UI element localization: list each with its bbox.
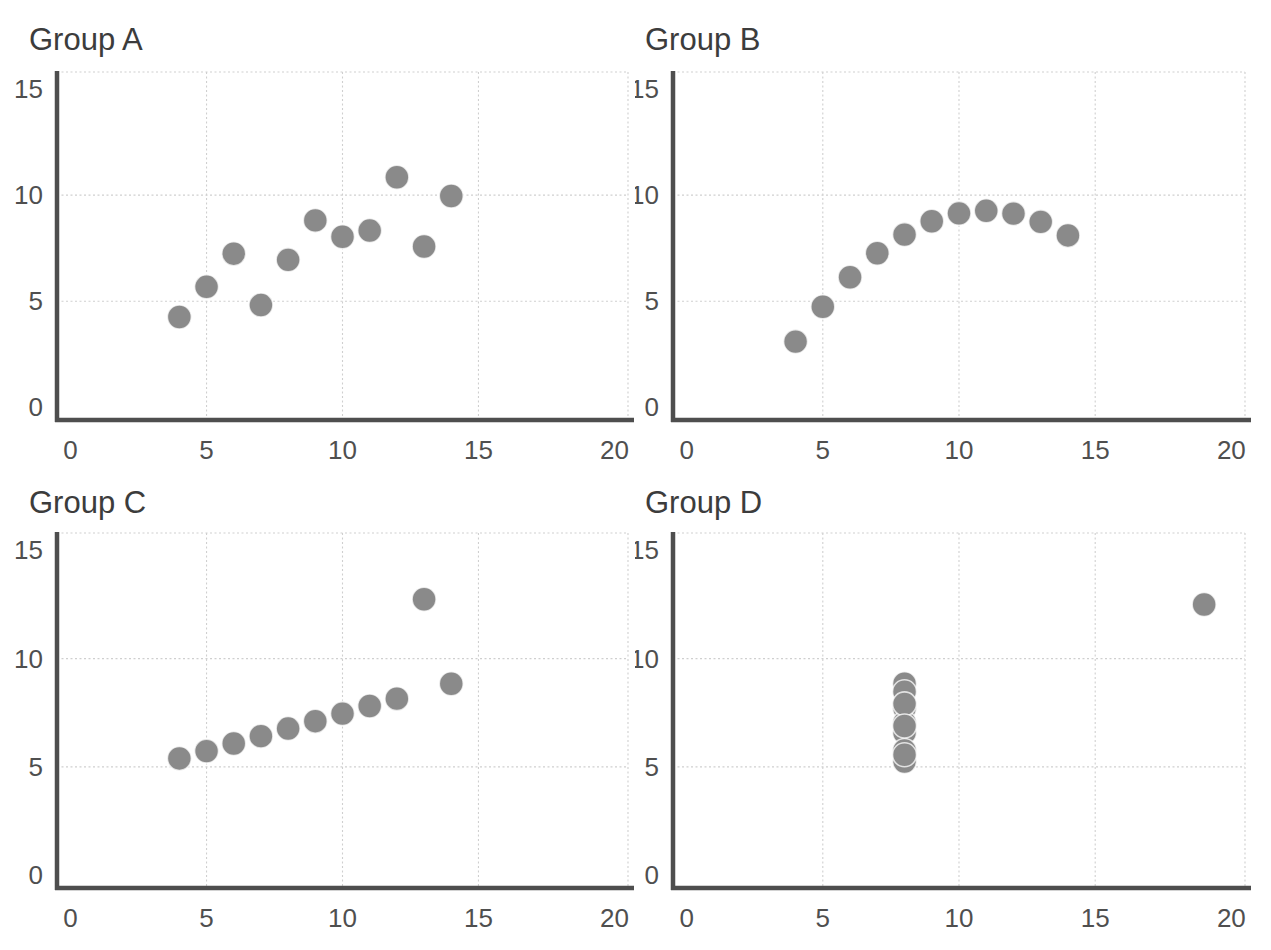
chart-cell-group-a: 05101520051015Group A — [0, 0, 635, 475]
chart-title: Group B — [645, 22, 760, 57]
data-point — [249, 724, 273, 748]
data-point — [811, 295, 835, 319]
chart-cell-group-d: 05101520051015Group D — [635, 475, 1271, 950]
data-point — [167, 746, 191, 770]
data-point — [412, 234, 436, 258]
y-tick-label: 10 — [14, 180, 43, 210]
data-point — [920, 209, 944, 233]
x-tick-label: 20 — [1217, 435, 1246, 465]
data-point — [303, 208, 327, 232]
y-tick-label: 0 — [29, 392, 43, 422]
anscombe-quartet-figure: 05101520051015Group A 05101520051015Grou… — [0, 0, 1271, 950]
y-tick-label: 15 — [14, 74, 43, 104]
data-point — [893, 714, 917, 738]
x-tick-label: 15 — [1081, 435, 1110, 465]
data-point — [947, 201, 971, 225]
x-tick-label: 5 — [199, 435, 213, 465]
y-tick-label: 0 — [29, 860, 43, 890]
data-point — [838, 265, 862, 289]
data-point — [439, 672, 463, 696]
x-tick-label: 20 — [600, 435, 629, 465]
data-point — [974, 199, 998, 223]
data-point — [331, 702, 355, 726]
x-tick-label: 20 — [1217, 903, 1246, 933]
data-point — [439, 184, 463, 208]
y-tick-label: 5 — [645, 752, 659, 782]
data-point — [412, 587, 436, 611]
data-point — [358, 694, 382, 718]
y-tick-label: 5 — [29, 286, 43, 316]
x-tick-label: 5 — [816, 435, 830, 465]
data-point — [249, 293, 273, 317]
chart-cell-group-c: 05101520051015Group C — [0, 475, 635, 950]
y-tick-label: 0 — [645, 392, 659, 422]
data-point — [784, 330, 808, 354]
data-point — [893, 223, 917, 247]
data-point — [222, 732, 246, 756]
y-tick-label: 15 — [635, 535, 659, 565]
data-point — [276, 248, 300, 272]
chart-title: Group D — [645, 485, 762, 520]
data-point — [893, 743, 917, 767]
data-point — [385, 165, 409, 189]
x-tick-label: 10 — [945, 435, 974, 465]
x-tick-label: 15 — [464, 435, 493, 465]
data-point — [358, 219, 382, 243]
data-point — [1192, 592, 1216, 616]
y-tick-label: 15 — [14, 535, 43, 565]
data-point — [276, 717, 300, 741]
x-tick-label: 0 — [679, 435, 693, 465]
x-tick-label: 15 — [1081, 903, 1110, 933]
x-tick-label: 10 — [328, 435, 357, 465]
data-point — [167, 305, 191, 329]
x-tick-label: 10 — [328, 903, 357, 933]
chart-title: Group C — [29, 485, 146, 520]
data-point — [195, 275, 219, 299]
y-tick-label: 5 — [645, 286, 659, 316]
data-point — [1056, 223, 1080, 247]
scatter-plot-canvas: 05101520051015Group D — [635, 475, 1271, 950]
data-point — [865, 241, 889, 265]
y-tick-label: 15 — [635, 74, 659, 104]
y-tick-label: 10 — [635, 644, 659, 674]
data-point — [893, 692, 917, 716]
x-tick-label: 10 — [945, 903, 974, 933]
scatter-plot-canvas: 05101520051015Group C — [0, 475, 635, 950]
scatter-plot-canvas: 05101520051015Group B — [635, 0, 1271, 475]
scatter-plot-canvas: 05101520051015Group A — [0, 0, 635, 475]
data-point — [385, 687, 409, 711]
data-point — [303, 709, 327, 733]
x-tick-label: 0 — [63, 903, 77, 933]
x-tick-label: 15 — [464, 903, 493, 933]
data-point — [1001, 202, 1025, 226]
x-tick-label: 5 — [816, 903, 830, 933]
x-tick-label: 5 — [199, 903, 213, 933]
y-tick-label: 10 — [635, 180, 659, 210]
x-tick-label: 0 — [679, 903, 693, 933]
chart-title: Group A — [29, 22, 143, 57]
data-point — [222, 242, 246, 266]
y-tick-label: 5 — [29, 752, 43, 782]
data-point — [331, 225, 355, 249]
data-point — [1029, 210, 1053, 234]
x-tick-label: 0 — [63, 435, 77, 465]
chart-cell-group-b: 05101520051015Group B — [635, 0, 1271, 475]
y-tick-label: 0 — [645, 860, 659, 890]
y-tick-label: 10 — [14, 644, 43, 674]
data-point — [195, 739, 219, 763]
x-tick-label: 20 — [600, 903, 629, 933]
